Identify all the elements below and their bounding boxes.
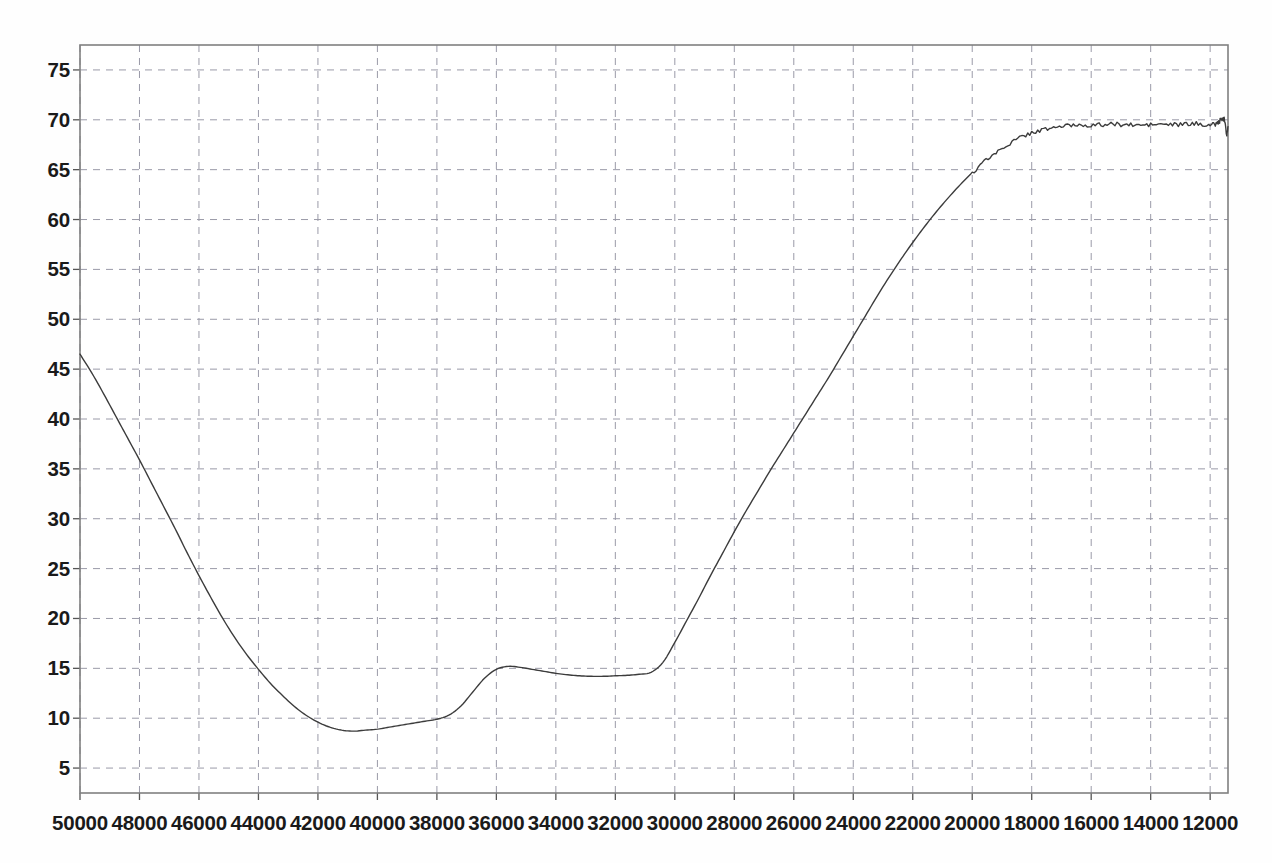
line-chart-canvas [0,0,1272,863]
x-tick-label: 32000 [587,811,643,835]
chart-figure: 51015202530354045505560657075 5000048000… [0,0,1272,863]
y-tick-label: 40 [20,407,70,431]
x-tick-label: 26000 [766,811,822,835]
x-tick-label: 40000 [349,811,405,835]
y-tick-label: 30 [20,507,70,531]
y-tick-label: 55 [20,257,70,281]
x-tick-label: 46000 [171,811,227,835]
x-tick-label: 16000 [1063,811,1119,835]
y-tick-label: 10 [20,706,70,730]
x-tick-label: 44000 [230,811,286,835]
y-tick-label: 75 [20,58,70,82]
y-tick-label: 45 [20,357,70,381]
y-tick-label: 15 [20,656,70,680]
x-tick-label: 14000 [1123,811,1179,835]
y-tick-label: 65 [20,158,70,182]
x-tick-label: 48000 [111,811,167,835]
x-tick-label: 24000 [825,811,881,835]
y-tick-label: 60 [20,208,70,232]
y-tick-label: 20 [20,606,70,630]
y-tick-label: 25 [20,557,70,581]
x-tick-label: 18000 [1004,811,1060,835]
x-tick-label: 50000 [52,811,108,835]
x-tick-label: 36000 [468,811,524,835]
y-tick-label: 50 [20,307,70,331]
x-tick-label: 42000 [290,811,346,835]
x-tick-label: 28000 [706,811,762,835]
x-tick-label: 22000 [885,811,941,835]
x-tick-label: 12000 [1182,811,1238,835]
x-tick-label: 34000 [528,811,584,835]
y-tick-label: 35 [20,457,70,481]
x-tick-label: 30000 [647,811,703,835]
y-tick-label: 5 [20,756,70,780]
x-tick-label: 38000 [409,811,465,835]
y-tick-label: 70 [20,108,70,132]
x-tick-label: 20000 [944,811,1000,835]
